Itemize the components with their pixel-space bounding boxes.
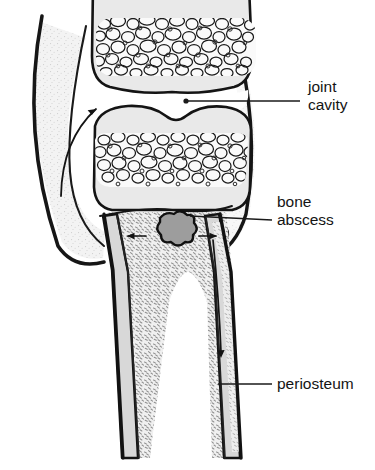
- leader-dot-joint-cavity: [183, 98, 188, 103]
- lower-cancellous-bone: [90, 128, 260, 192]
- upper-epiphysis: [92, 0, 258, 93]
- anatomical-diagram: joint cavity bone abscess periosteum: [0, 0, 375, 470]
- bone-joint-illustration: joint cavity bone abscess periosteum: [0, 0, 375, 470]
- lower-epiphysis: [90, 106, 260, 210]
- upper-cancellous-bone: [94, 15, 259, 78]
- label-periosteum: periosteum: [277, 375, 354, 392]
